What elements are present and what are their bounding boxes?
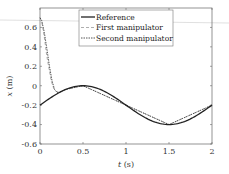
y-tick-label: -0.4 [22, 120, 37, 129]
legend-item-label: Reference [96, 13, 135, 22]
y-axis-label: x (m) [5, 76, 14, 97]
legend: ReferenceFirst manipulatorSecond manipul… [79, 10, 173, 46]
x-tick-label: 2 [209, 147, 214, 156]
legend-item-label: Second manipulator [96, 34, 173, 43]
legend-item-label: First manipulator [96, 23, 163, 32]
y-tick-label: -0.6 [22, 140, 37, 149]
line-chart: -0.6-0.4-0.200.20.40.6 00.511.52 Referen… [0, 0, 229, 174]
y-tick-label: -0.2 [22, 101, 37, 110]
y-tick-label: 0.4 [24, 43, 37, 52]
x-tick-label: 1 [123, 147, 128, 156]
y-tick-label: 0.6 [24, 23, 37, 32]
x-axis-label: t (s) [118, 160, 134, 169]
x-tick-label: 1.5 [163, 147, 176, 156]
series-line-reference [40, 86, 212, 125]
y-tick-label: 0 [32, 82, 37, 91]
y-tick-label: 0.2 [24, 62, 37, 71]
x-tick-label: 0.5 [77, 147, 90, 156]
x-tick-label: 0 [37, 147, 42, 156]
